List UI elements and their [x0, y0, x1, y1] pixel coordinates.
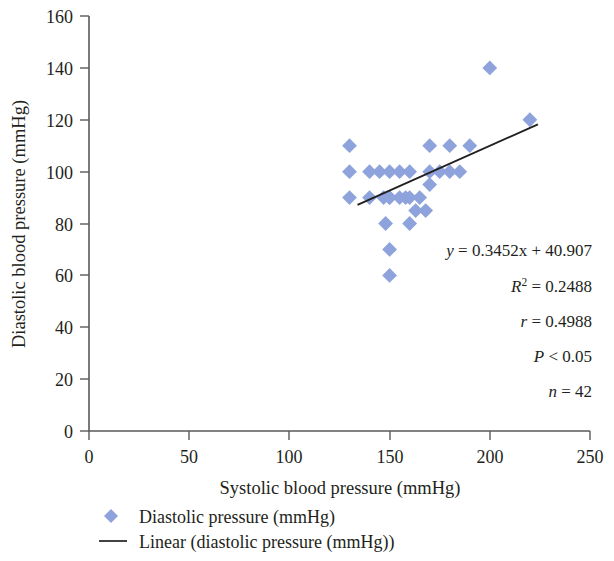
chart-legend: Diastolic pressure (mmHg) Linear (diasto…	[99, 507, 394, 553]
data-point-marker	[382, 242, 397, 257]
y-tick-label-80: 80	[55, 215, 73, 235]
data-point-marker	[342, 138, 357, 153]
data-point-marker	[342, 164, 357, 179]
x-tick-label-0: 0	[85, 447, 94, 467]
data-point-marker	[378, 216, 393, 231]
p-value-symbol: P	[533, 347, 544, 366]
legend-item-linear-trend[interactable]: Linear (diastolic pressure (mmHg))	[99, 532, 394, 553]
p-value-value: < 0.05	[544, 347, 592, 366]
data-point-marker	[422, 138, 437, 153]
legend-item-diastolic-pressure[interactable]: Diastolic pressure (mmHg)	[104, 507, 335, 528]
data-point-marker	[402, 164, 417, 179]
data-point-marker	[382, 268, 397, 283]
x-tick-label-100: 100	[276, 447, 303, 467]
y-axis-title: Diastolic blood pressure (mmHg)	[9, 100, 30, 348]
x-tick-labels: 0 50 100 150 200 250	[85, 447, 604, 467]
x-tick-label-50: 50	[180, 447, 198, 467]
x-tick-label-150: 150	[377, 447, 404, 467]
data-point-marker	[452, 164, 467, 179]
y-tick-label-20: 20	[55, 370, 73, 390]
chart-canvas: 160 140 120 100 80 60 40 20 0 0 50 100 1…	[0, 0, 614, 561]
r-squared-annotation: R2 = 0.2488	[510, 276, 592, 296]
p-value-annotation: P < 0.05	[533, 347, 592, 366]
equation-variable: y	[444, 241, 454, 260]
x-axis	[89, 431, 590, 440]
x-tick-label-250: 250	[577, 447, 604, 467]
equation-body: = 0.3452x + 40.907	[454, 241, 593, 260]
data-point-marker	[418, 203, 433, 218]
y-tick-label-100: 100	[46, 163, 73, 183]
data-point-marker	[482, 60, 497, 75]
y-tick-label-40: 40	[55, 318, 73, 338]
regression-trendline	[358, 124, 538, 205]
y-tick-labels: 160 140 120 100 80 60 40 20 0	[46, 7, 73, 442]
sample-size-annotation: n = 42	[548, 382, 592, 401]
y-tick-label-160: 160	[46, 7, 73, 27]
scatter-chart-figure: 160 140 120 100 80 60 40 20 0 0 50 100 1…	[0, 0, 614, 561]
x-axis-title: Systolic blood pressure (mmHg)	[220, 478, 461, 499]
data-point-marker	[402, 216, 417, 231]
data-point-marker	[462, 138, 477, 153]
regression-equation-annotation: y = 0.3452x + 40.907	[444, 241, 592, 260]
data-point-marker	[412, 190, 427, 205]
legend-label-linear-trend: Linear (diastolic pressure (mmHg))	[139, 532, 394, 553]
data-point-marker	[342, 190, 357, 205]
sample-size-value: = 42	[557, 382, 592, 401]
y-tick-label-60: 60	[55, 266, 73, 286]
diamond-marker-icon	[104, 509, 118, 523]
y-tick-label-0: 0	[64, 422, 73, 442]
statistics-annotation-block: y = 0.3452x + 40.907 R2 = 0.2488 r = 0.4…	[444, 241, 592, 401]
correlation-value: = 0.4988	[527, 312, 592, 331]
data-point-marker	[422, 177, 437, 192]
sample-size-symbol: n	[548, 382, 557, 401]
x-tick-label-200: 200	[477, 447, 504, 467]
data-point-marker	[442, 138, 457, 153]
y-tick-label-120: 120	[46, 111, 73, 131]
r-squared-symbol: R	[510, 277, 522, 296]
correlation-annotation: r = 0.4988	[521, 312, 592, 331]
trendline-layer	[358, 124, 538, 205]
y-tick-label-140: 140	[46, 59, 73, 79]
legend-label-diastolic-pressure: Diastolic pressure (mmHg)	[139, 507, 335, 528]
y-axis	[80, 16, 89, 431]
r-squared-value: = 0.2488	[527, 277, 592, 296]
